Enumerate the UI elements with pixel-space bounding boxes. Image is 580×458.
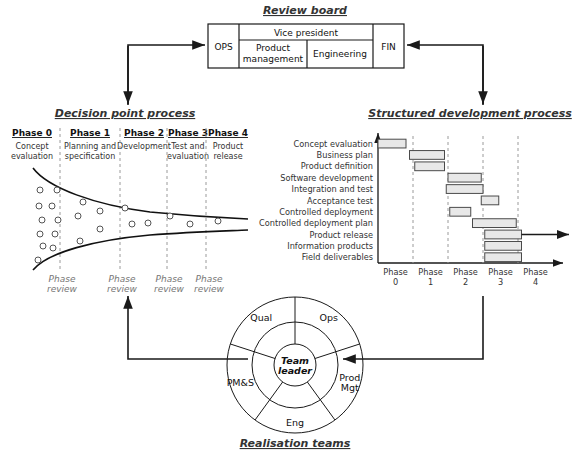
phase-header-4: Phase 4	[208, 128, 248, 138]
gantt-bar	[415, 162, 445, 171]
gantt-bar	[378, 139, 406, 148]
review-board-cell-fin: FIN	[381, 42, 396, 52]
wheel-segment-label: Qual	[250, 312, 272, 323]
connector-left-to-review-board	[128, 45, 205, 105]
gantt-x-tick-line2: 3	[498, 277, 503, 287]
diagram-canvas: Review board OPS Vice president Product …	[0, 0, 580, 458]
review-board-title: Review board	[263, 4, 347, 17]
gantt-x-tick-line2: 4	[533, 277, 538, 287]
gantt-x-tick-line2: 1	[428, 277, 433, 287]
phase-header-0: Phase 0	[12, 128, 52, 138]
gantt-bar	[485, 230, 522, 239]
wheel-segment-label: Eng	[286, 417, 304, 428]
wheel-segment-label-line2: Mgt	[341, 382, 359, 393]
phase-review-0-line2: review	[47, 284, 78, 294]
process-overview-diagram: Review board OPS Vice president Product …	[0, 0, 580, 458]
funnel-lower-curve	[33, 230, 248, 270]
wheel-spoke-3	[255, 382, 283, 420]
structured-development-process-title: Structured development process	[368, 107, 572, 120]
phase-sub-1-line1: Planning and	[64, 142, 116, 151]
gantt-task-label: Software development	[280, 173, 373, 183]
phase-review-3-line1: Phase	[196, 274, 223, 284]
gantt-task-label: Information products	[287, 241, 373, 251]
wheel-spoke-2	[307, 382, 335, 420]
phase-sub-3-line1: Test and	[170, 142, 204, 151]
connector-right-to-review-board	[407, 45, 483, 105]
structured-development-process-section: Structured development process Concept e…	[259, 107, 572, 287]
gantt-x-tick-line1: Phase	[488, 267, 512, 277]
gantt-x-tick-line1: Phase	[523, 267, 547, 277]
review-board-section: Review board OPS Vice president Product …	[208, 4, 404, 68]
phase-header-2: Phase 2	[124, 128, 164, 138]
wheel-segment-label: Ops	[320, 312, 339, 323]
review-board-cell-product-management-line2: management	[243, 54, 304, 64]
gantt-bar	[481, 196, 499, 205]
phase-sub-3-line2: evaluation	[167, 152, 209, 161]
phase-review-2-line1: Phase	[156, 274, 183, 284]
gantt-bar	[450, 207, 471, 216]
phase-sub-1-line2: specification	[65, 152, 115, 161]
gantt-x-tick-line1: Phase	[383, 267, 407, 277]
gantt-chart: Concept evaluationBusiness planProduct d…	[259, 133, 569, 287]
gantt-task-label: Field deliverables	[302, 252, 373, 262]
gantt-x-tick-line1: Phase	[418, 267, 442, 277]
gantt-x-tick-line2: 2	[463, 277, 468, 287]
phase-header-3: Phase 3	[168, 128, 208, 138]
gantt-bar	[485, 253, 522, 262]
gantt-task-label: Controlled deployment plan	[259, 218, 373, 228]
gantt-bar	[410, 151, 445, 160]
gantt-bar	[473, 219, 517, 228]
gantt-task-label: Business plan	[317, 150, 373, 160]
gantt-x-tick-line1: Phase	[453, 267, 477, 277]
decision-point-process-title: Decision point process	[55, 107, 196, 120]
phase-sub-0-line1: Concept	[15, 142, 48, 151]
gantt-task-label: Product definition	[301, 161, 373, 171]
phase-sub-0-line2: evaluation	[11, 152, 53, 161]
review-board-cell-ops: OPS	[214, 42, 233, 52]
review-board-cell-vice-president: Vice president	[274, 28, 339, 38]
realisation-teams-title: Realisation teams	[240, 437, 351, 450]
phase-review-2-line2: review	[154, 284, 185, 294]
wheel-center-label-line2: leader	[278, 365, 313, 376]
gantt-task-label: Concept evaluation	[293, 139, 373, 149]
gantt-task-label: Product release	[309, 230, 373, 240]
phase-review-1-line2: review	[107, 284, 138, 294]
realisation-teams-wheel: OpsProdMgtEngPM&SQualTeamleader	[227, 297, 363, 433]
gantt-bar	[446, 185, 483, 194]
realisation-teams-section: OpsProdMgtEngPM&SQualTeamleader Realisat…	[227, 297, 363, 450]
phase-review-0-line1: Phase	[49, 274, 76, 284]
wheel-segment-label: PM&S	[227, 377, 254, 388]
funnel-upper-curve	[33, 168, 248, 219]
connector-circle-to-decision	[128, 296, 248, 359]
phase-header-1: Phase 1	[70, 128, 110, 138]
gantt-task-label: Controlled deployment	[279, 207, 373, 217]
phase-sub-2-line1: Development	[117, 142, 171, 151]
phase-review-1-line1: Phase	[109, 274, 136, 284]
phase-sub-4-line2: release	[213, 152, 242, 161]
connector-structured-to-circle	[343, 296, 483, 359]
phase-sub-4-line1: Product	[213, 142, 243, 151]
gantt-x-tick-line2: 0	[393, 277, 398, 287]
gantt-bar	[485, 241, 522, 250]
gantt-task-label: Acceptance test	[307, 196, 374, 206]
review-board-cell-engineering: Engineering	[313, 49, 367, 59]
phase-review-3-line2: review	[194, 284, 225, 294]
gantt-task-label: Integration and test	[292, 184, 374, 194]
decision-point-process-section: Decision point process Phase 0 Phase 1 P…	[11, 107, 248, 294]
gantt-bar	[448, 173, 481, 182]
review-board-cell-product-management-line1: Product	[256, 43, 291, 53]
